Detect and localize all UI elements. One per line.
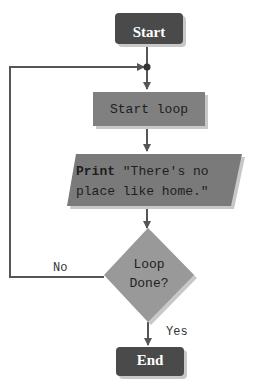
start-loop-node: Start loop	[93, 92, 208, 129]
no-label: No	[53, 261, 67, 275]
flowchart-canvas: Start Start loop Print "There's no place…	[0, 0, 253, 381]
decision-line1: Loop	[133, 257, 164, 272]
yes-label: Yes	[166, 325, 188, 339]
print-keyword: Print	[76, 164, 115, 179]
start-loop-label: Start loop	[110, 102, 188, 117]
decision-line2: Done?	[129, 276, 168, 291]
junction-dot	[144, 64, 151, 71]
start-label: Start	[133, 24, 166, 40]
start-node: Start	[115, 13, 186, 47]
decision-node: Loop Done?	[104, 228, 197, 325]
print-line2: place like home."	[76, 184, 209, 199]
print-line1: "There's no	[115, 164, 209, 179]
svg-text:Print "There's no: Print "There's no	[76, 164, 209, 179]
end-node: End	[116, 347, 187, 379]
end-label: End	[137, 352, 164, 368]
print-node: Print "There's no place like home."	[67, 154, 245, 209]
